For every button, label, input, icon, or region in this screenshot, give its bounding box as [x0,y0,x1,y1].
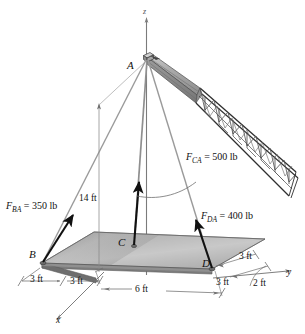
force-ba-subscript: BA [12,205,21,214]
force-ca-leader [137,182,196,197]
dim-left-inner-label: 3 ft [70,277,83,287]
point-label-c: C [118,237,125,248]
force-ca-subscript: CA [192,156,202,165]
dim-right-end-label: 2 ft [253,279,266,289]
force-ca-equals: = [204,151,210,162]
force-ba-label: FBA = 350 lb [6,201,57,214]
point-label-b: B [29,249,36,260]
y-axis-label: y [287,268,291,278]
dim-left-outer-label: 3 ft [30,275,43,285]
crane-force-diagram: z y x A B C D FBA = 350 lb FCA = 500 lb … [0,0,305,334]
crane-boom [144,53,299,199]
point-label-a: A [127,60,134,71]
force-ba-value: 350 lb [32,200,57,211]
height-dimension-label: 14 ft [79,194,97,204]
force-ca-value: 500 lb [212,151,237,162]
z-axis-label: z [143,8,146,16]
force-da-subscript: DA [207,215,217,224]
force-da-label: FDA = 400 lb [201,211,253,224]
force-da-value: 400 lb [228,210,253,221]
dim-right-upper-label: 3 ft [239,252,252,262]
x-axis-label: x [56,316,60,326]
force-ca-label: FCA = 500 lb [186,152,238,165]
force-ba-equals: = [24,200,30,211]
dim-right-lower-label: 3 ft [216,278,229,288]
force-da-equals: = [220,210,226,221]
dim-front-label: 6 ft [135,285,148,295]
point-label-d: D [202,258,210,269]
front-dimension [101,271,225,298]
